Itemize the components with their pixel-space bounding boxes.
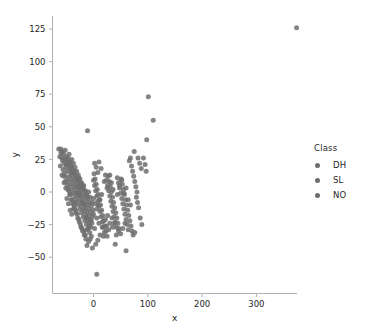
data-point	[85, 128, 90, 133]
data-point	[129, 163, 134, 168]
data-point	[95, 187, 100, 192]
data-point	[131, 174, 136, 179]
data-point	[111, 187, 116, 192]
data-point	[120, 226, 125, 231]
x-tick-label: 100	[140, 299, 156, 309]
data-points-group	[56, 25, 299, 276]
data-point	[99, 166, 104, 171]
legend-item[interactable]: NO	[312, 188, 364, 202]
data-point	[67, 152, 72, 157]
data-point	[96, 203, 101, 208]
data-point	[68, 192, 73, 197]
y-tick-label: 125	[29, 24, 45, 34]
data-point	[83, 233, 88, 238]
y-axis-label: y	[10, 151, 20, 157]
data-point	[132, 149, 137, 154]
data-point	[126, 197, 131, 202]
data-point	[73, 200, 78, 205]
data-point	[114, 216, 119, 221]
data-point	[125, 208, 130, 213]
data-point	[57, 154, 62, 159]
legend-items: DHSLNO	[312, 158, 364, 202]
data-point	[115, 192, 120, 197]
data-point	[114, 233, 119, 238]
legend-item[interactable]: DH	[312, 158, 364, 172]
data-point	[87, 223, 92, 228]
legend-marker-icon	[315, 163, 320, 168]
data-point	[112, 221, 117, 226]
data-point	[86, 190, 91, 195]
data-point	[62, 180, 67, 185]
data-point	[76, 217, 81, 222]
data-point	[94, 182, 99, 187]
data-point	[151, 118, 156, 123]
data-point	[139, 222, 144, 227]
data-point	[91, 212, 96, 217]
data-point	[107, 173, 112, 178]
scatter-plot-figure: −50−2502550751001250100200300 xy Class D…	[0, 0, 365, 333]
legend-marker-icon	[315, 193, 320, 198]
data-point	[75, 212, 80, 217]
data-point	[134, 190, 139, 195]
x-tick-label: 0	[91, 299, 96, 309]
y-tick-label: −25	[28, 220, 46, 230]
data-point	[64, 196, 69, 201]
legend-item-label: NO	[333, 190, 346, 200]
data-point	[124, 248, 129, 253]
data-point	[81, 183, 86, 188]
data-point	[94, 272, 99, 277]
legend-title: Class	[314, 143, 364, 153]
data-point	[58, 163, 63, 168]
data-point	[98, 233, 103, 238]
data-point	[134, 195, 139, 200]
data-point	[74, 191, 79, 196]
data-point	[105, 186, 110, 191]
data-point	[110, 195, 115, 200]
y-tick-label: 50	[35, 122, 46, 132]
data-point	[68, 165, 73, 170]
data-point	[135, 200, 140, 205]
y-tick-label: 0	[40, 187, 45, 197]
x-tick-label: 200	[194, 299, 210, 309]
data-point	[128, 223, 133, 228]
data-point	[63, 186, 68, 191]
legend-item[interactable]: SL	[312, 173, 364, 187]
data-point	[60, 173, 65, 178]
data-point	[109, 180, 114, 185]
data-point	[136, 156, 141, 161]
data-point	[126, 213, 131, 218]
data-point	[103, 217, 108, 222]
y-tick-label: 75	[35, 89, 46, 99]
data-point	[96, 160, 101, 165]
data-point	[95, 170, 100, 175]
data-point	[99, 192, 104, 197]
data-point	[92, 161, 97, 166]
data-point	[137, 161, 142, 166]
plot-canvas: −50−2502550751001250100200300 xy	[0, 0, 365, 333]
data-point	[91, 196, 96, 201]
y-tick-label: 25	[35, 155, 46, 165]
data-point	[89, 218, 94, 223]
data-point	[94, 216, 99, 221]
data-point	[99, 208, 104, 213]
data-point	[130, 169, 135, 174]
data-point	[71, 169, 76, 174]
data-point	[66, 160, 71, 165]
data-point	[84, 216, 89, 221]
data-point	[80, 200, 85, 205]
legend: Class DHSLNO	[312, 143, 364, 203]
data-point	[100, 225, 105, 230]
data-point	[128, 203, 133, 208]
data-point	[102, 179, 107, 184]
y-tick-label: −50	[28, 252, 46, 262]
data-point	[138, 216, 143, 221]
data-point	[76, 175, 81, 180]
data-point	[63, 148, 68, 153]
data-point	[93, 242, 98, 247]
data-point	[121, 191, 126, 196]
data-point	[92, 226, 97, 231]
data-point	[66, 201, 71, 206]
data-point	[96, 221, 101, 226]
data-point	[107, 221, 112, 226]
data-point	[109, 216, 114, 221]
